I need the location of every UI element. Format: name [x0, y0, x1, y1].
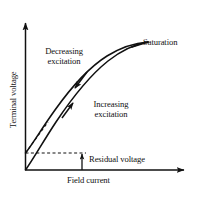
decreasing-excitation-label-line1: Decreasing: [45, 46, 83, 56]
residual-voltage-label: Residual voltage: [89, 155, 145, 165]
y-axis-label: Terminal voltage: [9, 62, 19, 138]
x-axis-label: Field current: [67, 176, 110, 186]
increasing-excitation-label-line2: excitation: [95, 109, 128, 119]
air-gap-dashed-line: [26, 122, 49, 153]
decreasing-excitation-label-line2: excitation: [48, 56, 81, 66]
increasing-excitation-label: Increasing excitation: [82, 100, 140, 119]
increasing-excitation-label-line1: Increasing: [94, 99, 129, 109]
decreasing-excitation-arrow: [75, 72, 87, 88]
saturation-label: Saturation: [143, 38, 177, 48]
decreasing-excitation-label: Decreasing excitation: [33, 47, 95, 66]
saturation-curve-figure: Saturation Decreasing excitation Increas…: [0, 0, 201, 202]
